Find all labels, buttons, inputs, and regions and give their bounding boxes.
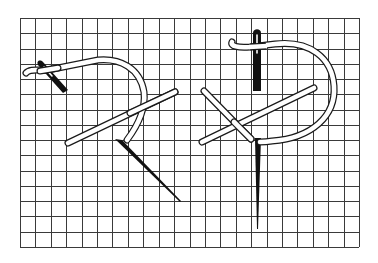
right-stitch-group: [202, 29, 334, 229]
left-diagonal-overlap: [130, 92, 175, 113]
left-lower-needle: [115, 139, 181, 202]
stitch-diagram: Needlework stitch diagram on canvas grid: [0, 0, 378, 263]
right-lower-needle: [255, 138, 261, 229]
diagram-canvas: [0, 0, 378, 263]
left-diagonal-thread: [68, 92, 175, 222]
